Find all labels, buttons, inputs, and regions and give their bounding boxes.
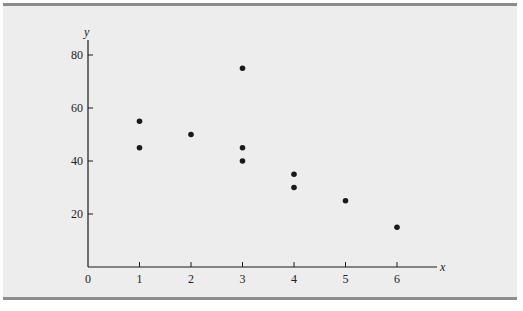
- data-point: [137, 118, 143, 124]
- x-tick-label: 1: [137, 272, 143, 286]
- axes: [88, 40, 437, 267]
- data-points: [137, 65, 400, 230]
- axis-ticks: 012345620406080: [71, 48, 400, 286]
- x-tick-label: 5: [343, 272, 349, 286]
- data-point: [291, 171, 297, 177]
- data-point: [240, 145, 246, 151]
- data-point: [137, 145, 143, 151]
- data-point: [240, 158, 246, 164]
- data-point: [188, 132, 194, 138]
- x-tick-label: 6: [394, 272, 400, 286]
- y-tick-label: 60: [71, 101, 83, 115]
- y-tick-label: 40: [71, 154, 83, 168]
- data-point: [343, 198, 349, 204]
- data-point: [240, 65, 246, 71]
- x-tick-label: 3: [240, 272, 246, 286]
- scatter-plot: 012345620406080 x y: [0, 0, 523, 311]
- y-tick-label: 80: [71, 48, 83, 62]
- y-axis-label: y: [83, 25, 90, 39]
- data-point: [394, 224, 400, 230]
- y-tick-label: 20: [71, 207, 83, 221]
- x-tick-label: 4: [291, 272, 297, 286]
- x-tick-label: 2: [188, 272, 194, 286]
- x-axis-label: x: [439, 260, 446, 274]
- data-point: [291, 185, 297, 191]
- x-tick-label: 0: [85, 272, 91, 286]
